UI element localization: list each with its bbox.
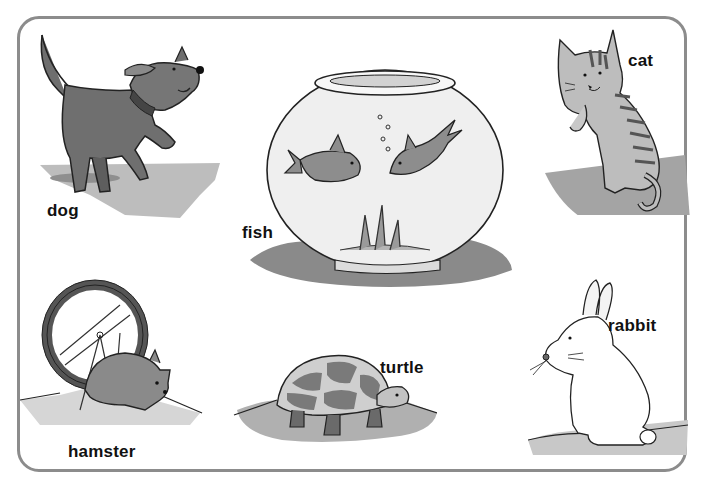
fishbowl-icon bbox=[240, 55, 515, 290]
cat-icon bbox=[545, 25, 690, 215]
cat-label: cat bbox=[628, 52, 653, 69]
fish-label: fish bbox=[242, 224, 273, 241]
dog-illustration bbox=[30, 30, 230, 230]
dog-label: dog bbox=[47, 202, 79, 219]
rabbit-label: rabbit bbox=[608, 317, 656, 334]
rabbit-illustration bbox=[528, 275, 688, 455]
fish-illustration bbox=[240, 55, 515, 290]
hamster-icon bbox=[20, 275, 220, 425]
hamster-label: hamster bbox=[68, 443, 136, 460]
cat-illustration bbox=[545, 25, 690, 215]
hamster-illustration bbox=[20, 275, 220, 425]
rabbit-icon bbox=[528, 275, 688, 455]
turtle-label: turtle bbox=[380, 359, 424, 376]
dog-icon bbox=[30, 30, 230, 230]
